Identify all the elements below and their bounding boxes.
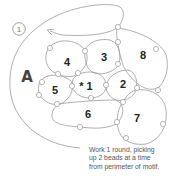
beads (36, 24, 165, 140)
region-label-5: 5 (52, 84, 58, 96)
bead (39, 79, 44, 84)
bead (55, 71, 60, 76)
bead (155, 87, 160, 92)
step-number: 1 (17, 25, 22, 34)
bead (160, 121, 165, 126)
instruction-caption: Work 1 round, picking up 2 beads at a ti… (89, 146, 177, 171)
region-label-3: 3 (101, 51, 107, 63)
bead (75, 70, 80, 75)
bead (77, 124, 82, 129)
region-label-2: 2 (120, 78, 126, 90)
figure-label: A (21, 68, 33, 86)
bead (115, 61, 120, 66)
bead (47, 45, 52, 50)
region-label-4: 4 (64, 56, 71, 68)
bead (103, 82, 108, 87)
caption-line-1: Work 1 round, picking (89, 146, 177, 154)
region-label-6: 6 (85, 108, 91, 120)
bead (120, 99, 125, 104)
bead (69, 83, 74, 88)
region-label-1: * 1 (79, 80, 92, 92)
bead (115, 39, 120, 44)
bead (114, 119, 119, 124)
bead (123, 135, 128, 140)
bead (82, 48, 87, 53)
region-label-8: 8 (140, 49, 146, 61)
bead (36, 92, 41, 97)
caption-line-3: from perimeter of motif. (89, 163, 177, 171)
region-label-7: 7 (134, 112, 140, 124)
bead (115, 24, 120, 29)
bead (134, 85, 139, 90)
bead (153, 46, 158, 51)
caption-line-2: up 2 beads at a time (89, 154, 177, 162)
bead (88, 95, 93, 100)
bead (54, 101, 59, 106)
